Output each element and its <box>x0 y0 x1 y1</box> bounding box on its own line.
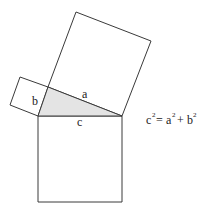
formula: c 2 = a 2 + b 2 <box>146 111 197 127</box>
formula-a-exp: 2 <box>172 111 176 119</box>
formula-c: c <box>146 113 151 127</box>
pythagoras-diagram: a b c c 2 = a 2 + b 2 <box>0 0 205 214</box>
formula-eq: = <box>156 113 163 127</box>
formula-b-exp: 2 <box>193 111 197 119</box>
formula-plus: + <box>177 113 184 127</box>
label-a: a <box>82 87 88 101</box>
label-b: b <box>32 94 38 108</box>
label-c: c <box>77 115 82 129</box>
right-triangle <box>38 87 122 116</box>
